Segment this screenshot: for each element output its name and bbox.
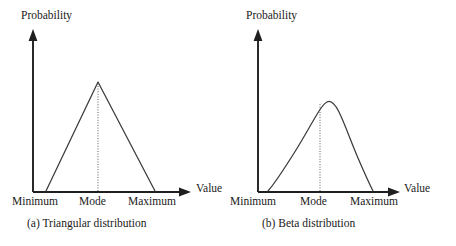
- xtick-label-minimum: Minimum: [12, 196, 58, 208]
- panel-triangular-distribution: Probability Value Minimum Mode Maximum (…: [0, 0, 228, 246]
- triangular-density-curve: [46, 82, 155, 191]
- y-axis-arrow-icon: [254, 29, 263, 41]
- y-axis-title: Probability: [246, 10, 297, 22]
- xtick-label-maximum: Maximum: [350, 196, 398, 208]
- x-axis-arrow-icon: [179, 188, 191, 197]
- panel-caption-a: (a) Triangular distribution: [27, 218, 146, 230]
- xtick-label-mode: Mode: [79, 196, 106, 208]
- xtick-label-mode: Mode: [300, 196, 327, 208]
- panel-beta-distribution: Probability Value Minimum Mode Maximum (…: [228, 0, 456, 246]
- xtick-label-maximum: Maximum: [128, 196, 176, 208]
- panel-caption-b: (b) Beta distribution: [262, 218, 355, 230]
- beta-distribution-plot: [228, 0, 456, 246]
- x-axis-title: Value: [196, 183, 222, 195]
- x-axis-title: Value: [404, 183, 430, 195]
- y-axis-arrow-icon: [29, 29, 38, 41]
- triangular-distribution-plot: [0, 0, 228, 246]
- figure-distributions: Probability Value Minimum Mode Maximum (…: [0, 0, 456, 246]
- y-axis-title: Probability: [21, 10, 72, 22]
- xtick-label-minimum: Minimum: [230, 196, 276, 208]
